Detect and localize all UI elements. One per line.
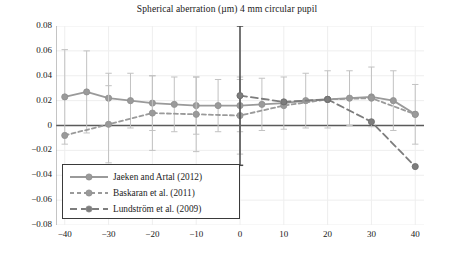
legend-item: Baskaran et al. (2011) — [69, 185, 233, 201]
x-tick-label: −30 — [89, 229, 129, 239]
y-tick-label: −0.06 — [8, 194, 52, 204]
chart-title: Spherical aberration (µm) 4 mm circular … — [0, 4, 454, 14]
chart-root: Spherical aberration (µm) 4 mm circular … — [0, 0, 454, 256]
y-tick-label: −0.08 — [8, 219, 52, 229]
y-tick-label: −0.02 — [8, 144, 52, 154]
y-tick-label: 0.04 — [8, 70, 52, 80]
legend-label: Lundström et al. (2009) — [109, 204, 201, 214]
legend-item: Lundström et al. (2009) — [69, 201, 233, 217]
y-tick-label: 0.06 — [8, 45, 52, 55]
x-tick-label: 20 — [308, 229, 348, 239]
y-tick-label: 0.02 — [8, 95, 52, 105]
x-tick-label: −40 — [45, 229, 85, 239]
x-tick-label: 30 — [351, 229, 391, 239]
x-tick-label: 10 — [264, 229, 304, 239]
x-tick-label: 40 — [395, 229, 435, 239]
x-tick-label: −20 — [132, 229, 172, 239]
legend-label: Jaeken and Artal (2012) — [109, 172, 202, 182]
legend-label: Baskaran et al. (2011) — [109, 188, 195, 198]
y-tick-label: 0 — [8, 120, 52, 130]
legend-key-icon — [69, 171, 109, 183]
x-tick-label: 0 — [220, 229, 260, 239]
x-tick-label: −10 — [176, 229, 216, 239]
chart-legend: Jaeken and Artal (2012)Baskaran et al. (… — [62, 164, 240, 219]
y-tick-label: 0.08 — [8, 20, 52, 30]
legend-key-icon — [69, 187, 109, 199]
y-tick-label: −0.04 — [8, 169, 52, 179]
legend-key-icon — [69, 203, 109, 215]
legend-item: Jaeken and Artal (2012) — [69, 169, 233, 185]
